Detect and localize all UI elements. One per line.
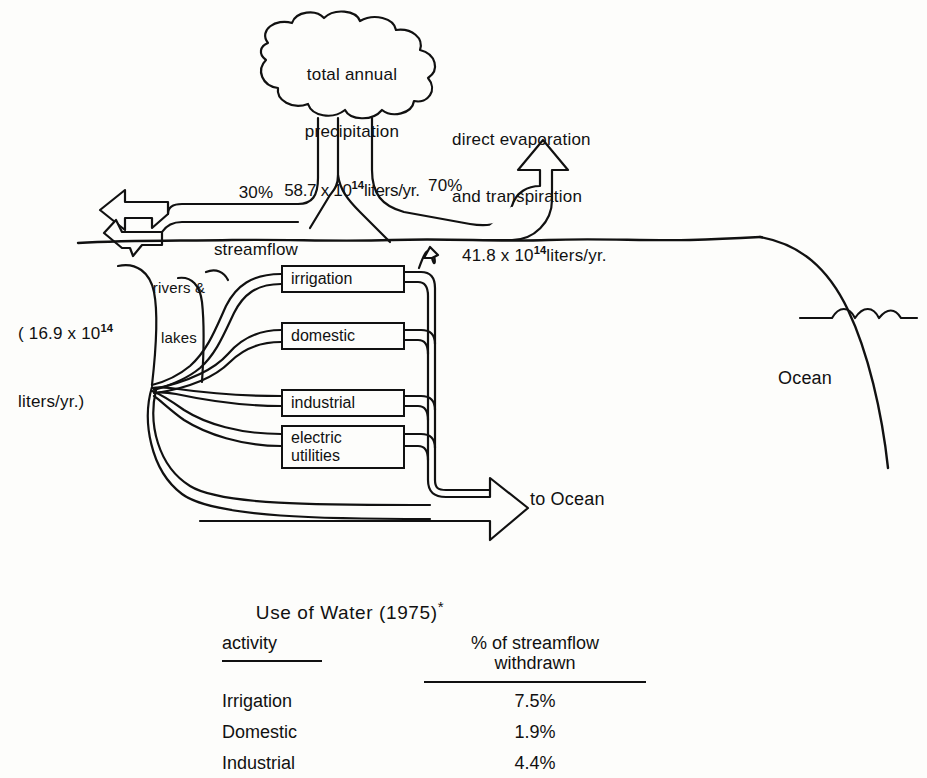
column-header-percent: % of streamflow withdrawn bbox=[410, 633, 660, 673]
rivers-volume-bottom: liters/yr.) bbox=[18, 391, 148, 414]
cloud-value-suffix: liters/yr. bbox=[364, 181, 420, 200]
use-box-industrial-label: industrial bbox=[291, 394, 355, 412]
table-title: Use of Water (1975)* bbox=[0, 598, 700, 624]
table-row-percent: 4.4% bbox=[410, 753, 660, 774]
evaporation-value-exponent: 14 bbox=[534, 244, 546, 256]
column-rule-activity bbox=[222, 660, 322, 662]
ocean-label: Ocean bbox=[778, 368, 832, 388]
evaporation-line1: direct evaporation bbox=[452, 130, 672, 149]
table-row-percent: 1.9% bbox=[410, 722, 660, 743]
evaporation-value-suffix: liters/yr. bbox=[546, 246, 607, 265]
water-cycle-figure: total annual precipitation 58.7 x 1014li… bbox=[0, 0, 927, 778]
irrigation-evaporation-arrowhead bbox=[424, 247, 438, 258]
use-box-industrial[interactable]: industrial bbox=[281, 389, 405, 417]
return-domestic-in bbox=[405, 340, 428, 354]
cloud-line2: precipitation bbox=[254, 122, 450, 141]
rivers-volume-top: ( 16.9 x 1014 bbox=[18, 321, 148, 346]
table-row-activity: Domestic bbox=[222, 722, 297, 743]
column-header-activity: activity bbox=[222, 633, 277, 654]
to-ocean-arrow-inner-wall bbox=[435, 480, 490, 490]
rivers-volume-exponent: 14 bbox=[101, 322, 113, 334]
coastline bbox=[760, 237, 888, 468]
pipe-industrial-out bbox=[152, 387, 281, 396]
table-title-footnote-marker: * bbox=[438, 598, 445, 615]
table-row-activity: Industrial bbox=[222, 753, 295, 774]
evaporation-value: 41.8 x 1014liters/yr. bbox=[452, 244, 672, 265]
use-box-irrigation[interactable]: irrigation bbox=[281, 265, 405, 293]
streamflow-arrow-outline bbox=[100, 190, 168, 230]
use-box-irrigation-label: irrigation bbox=[291, 270, 352, 288]
evaporation-line2: and transpiration bbox=[452, 187, 672, 206]
return-industrial-in bbox=[405, 406, 428, 420]
evaporation-label: direct evaporation and transpiration 41.… bbox=[452, 92, 672, 303]
to-ocean-label: to Ocean bbox=[530, 489, 605, 509]
column-header-percent-line1: % of streamflow bbox=[410, 633, 660, 653]
rivers-volume-prefix: ( 16.9 x 10 bbox=[18, 324, 101, 343]
rivers-lakes-volume: ( 16.9 x 1014 liters/yr.) bbox=[18, 275, 148, 460]
return-industrial-out bbox=[405, 396, 435, 410]
use-box-domestic[interactable]: domestic bbox=[281, 322, 405, 350]
streamflow-percent: 30% bbox=[196, 183, 316, 202]
use-box-electric-utilities[interactable]: electric utilities bbox=[281, 425, 405, 469]
return-irrigation-in bbox=[405, 282, 428, 480]
table-row-activity: Irrigation bbox=[222, 691, 292, 712]
return-domestic-out bbox=[405, 330, 435, 344]
pipe-electric-out bbox=[152, 391, 281, 434]
evaporation-percent-label: 70% bbox=[428, 176, 463, 195]
to-ocean-arrow-outline bbox=[200, 478, 528, 540]
use-box-domestic-label: domestic bbox=[291, 327, 355, 345]
evaporation-value-prefix: 41.8 x 10 bbox=[462, 246, 534, 265]
return-irrigation-out bbox=[405, 272, 435, 480]
column-rule-percent bbox=[424, 681, 646, 683]
table-title-text: Use of Water (1975) bbox=[256, 602, 438, 623]
return-electric-in bbox=[405, 446, 428, 460]
column-header-percent-line2: withdrawn bbox=[410, 653, 660, 673]
table-row-percent: 7.5% bbox=[410, 691, 660, 712]
cloud-value-exponent: 14 bbox=[352, 179, 364, 191]
use-box-electric-utilities-label: electric utilities bbox=[291, 429, 342, 464]
sea-surface-waves bbox=[800, 309, 917, 318]
cloud-line1: total annual bbox=[254, 65, 450, 84]
